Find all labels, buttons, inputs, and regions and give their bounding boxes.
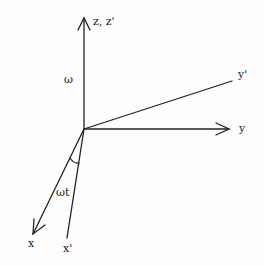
omega-label: ω xyxy=(64,74,73,85)
omega-t-label: ωt xyxy=(56,187,69,198)
axes-drawing xyxy=(0,0,264,266)
y-prime-axis xyxy=(84,81,232,129)
x-axis-label: x xyxy=(28,238,34,249)
rotating-frame-diagram: z, z' y y' x x' ω ωt xyxy=(0,0,264,266)
x-prime-axis-label: x' xyxy=(63,243,72,254)
y-axis-label: y xyxy=(239,123,245,134)
y-prime-axis-label: y' xyxy=(238,69,247,80)
angle-arc xyxy=(70,158,79,163)
z-axis-label: z, z' xyxy=(93,16,115,27)
